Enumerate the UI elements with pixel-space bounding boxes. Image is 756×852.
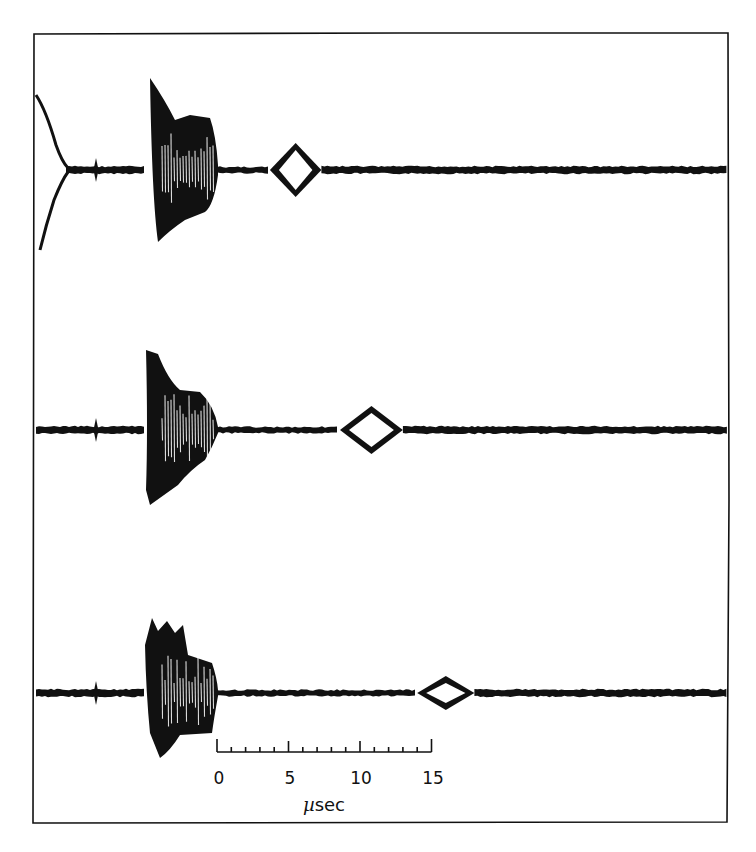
burst-striation [189, 681, 190, 703]
burst-striation [168, 656, 169, 727]
burst-striation [213, 420, 214, 439]
burst-striation [162, 146, 163, 191]
marker-spike [94, 681, 99, 705]
burst-striation [183, 156, 184, 183]
burst-striation [174, 157, 175, 181]
burst-striation [171, 400, 172, 457]
tick-label-10: 10 [350, 768, 372, 788]
burst-striation [204, 667, 205, 717]
burst-striation [207, 395, 208, 462]
trace-3 [36, 618, 726, 758]
initial-decay [36, 95, 68, 250]
trace-2 [36, 350, 727, 505]
oscilloscope-figure [0, 0, 756, 852]
burst-striation [195, 677, 196, 708]
baseline-noise [36, 426, 144, 435]
burst-striation [204, 406, 205, 452]
burst-striation [201, 148, 202, 189]
marker-spike [94, 418, 99, 442]
burst-striation [180, 158, 181, 181]
burst-striation [198, 157, 199, 181]
unit-label: µsec [303, 794, 345, 815]
baseline-noise [36, 689, 144, 698]
marker-spike [94, 158, 99, 182]
baseline-noise [217, 166, 268, 173]
baseline-noise [474, 689, 726, 698]
burst-striation [192, 157, 193, 182]
burst-striation [192, 414, 193, 445]
burst-striation [198, 415, 199, 444]
baseline-noise [66, 166, 144, 175]
burst-striation [186, 417, 187, 441]
trace-group [36, 78, 727, 758]
trace-1 [36, 78, 726, 250]
burst-striation [201, 683, 202, 702]
burst-striation [180, 405, 181, 452]
burst-striation [171, 134, 172, 203]
burst-striation [198, 657, 199, 724]
burst-striation [189, 151, 190, 188]
burst-striation [177, 410, 178, 448]
burst-striation [210, 147, 211, 190]
burst-striation [210, 669, 211, 714]
tick-label-15: 15 [422, 768, 444, 788]
burst-striation [168, 145, 169, 192]
burst-striation [204, 151, 205, 187]
burst-striation [207, 137, 208, 199]
burst-striation [174, 683, 175, 702]
tick-label-0: 0 [214, 768, 225, 788]
burst-striation [213, 146, 214, 192]
baseline-noise [321, 166, 726, 175]
burst-striation [201, 411, 202, 448]
unit-mu: µ [303, 794, 315, 815]
burst-striation [195, 151, 196, 187]
burst-striation [177, 150, 178, 188]
burst-striation [177, 660, 178, 723]
burst-striation [162, 664, 163, 718]
unit-sec: sec [315, 794, 345, 815]
burst-striation [174, 394, 175, 462]
burst-striation [180, 678, 181, 707]
tick-label-5: 5 [285, 768, 296, 788]
burst-striation [189, 396, 190, 461]
baseline-noise [217, 689, 415, 697]
burst-striation [186, 661, 187, 721]
burst-striation [171, 659, 172, 723]
burst-striation [210, 393, 211, 463]
burst-striation [183, 678, 184, 706]
burst-striation [168, 401, 169, 456]
baseline-noise [403, 426, 727, 435]
burst-striation [192, 682, 193, 703]
time-scale-bar [217, 739, 432, 752]
baseline-noise [217, 426, 337, 434]
burst-envelope [150, 78, 218, 242]
burst-striation [162, 418, 163, 440]
burst-striation [165, 680, 166, 705]
burst-striation [183, 414, 184, 445]
burst-striation [213, 675, 214, 708]
burst-striation [195, 410, 196, 448]
burst-striation [186, 156, 187, 183]
burst-striation [165, 145, 166, 192]
burst-striation [207, 679, 208, 706]
burst-striation [165, 395, 166, 461]
